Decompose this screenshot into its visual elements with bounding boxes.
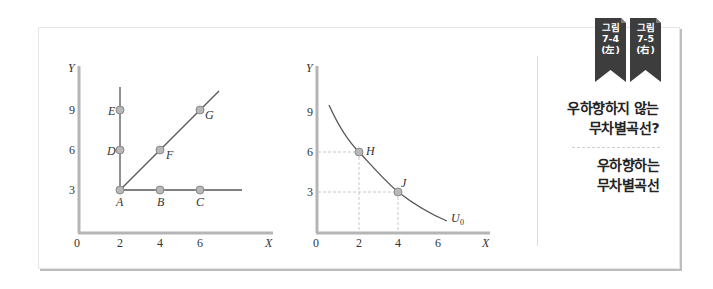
figure-ribbon-7-5: 그림 7-5 (右): [630, 18, 661, 82]
left-chart: Y X 0 2 4 6 3 6 9 A B C D E F G: [68, 61, 273, 250]
ribbon-line: 그림: [630, 22, 661, 33]
ribbon-label: 그림 7-4 (左): [595, 22, 626, 55]
label-f: F: [165, 148, 174, 162]
ribbon-line: 7-4: [595, 33, 626, 44]
label-b: B: [157, 195, 165, 209]
left-x-tick: 4: [157, 236, 163, 250]
label-c: C: [196, 195, 205, 209]
ribbon-label: 그림 7-5 (右): [630, 22, 661, 55]
right-x-axis-label: X: [481, 236, 490, 250]
caption-divider: [572, 147, 660, 148]
ribbon-line: 7-5: [630, 33, 661, 44]
point-f: [156, 146, 164, 154]
left-y-tick: 6: [69, 143, 75, 157]
left-x-axis-label: X: [264, 236, 273, 250]
diagonal-ray: [120, 91, 219, 190]
label-a: A: [115, 195, 124, 209]
caption-line: 우하향하지 않는: [567, 98, 659, 118]
left-x-tick: 2: [117, 236, 123, 250]
right-x-tick: 6: [435, 236, 441, 250]
left-y-tick: 3: [69, 183, 75, 197]
left-origin-label: 0: [74, 236, 80, 250]
point-h: [355, 148, 363, 156]
right-x-tick: 2: [356, 236, 362, 250]
label-h: H: [365, 144, 376, 158]
point-a: [116, 186, 124, 194]
right-x-tick: 4: [395, 236, 401, 250]
point-e: [116, 106, 124, 114]
label-e: E: [107, 104, 116, 118]
caption-line: 무차별곡선: [597, 175, 660, 195]
caption-line: 우하향하는: [597, 155, 660, 175]
right-y-tick: 9: [307, 105, 313, 119]
point-d: [116, 146, 124, 154]
right-chart: Y X 0 2 4 6 3 6 9 H J U 0: [306, 61, 490, 250]
point-c: [196, 186, 204, 194]
question-caption: 우하향하지 않는 무차별곡선?: [567, 98, 659, 138]
label-d: D: [106, 144, 116, 158]
indifference-curve-u0: [329, 105, 447, 221]
left-y-tick: 9: [69, 103, 75, 117]
left-x-tick: 6: [197, 236, 203, 250]
figure-ribbon-7-4: 그림 7-4 (左): [595, 18, 626, 82]
right-y-tick: 6: [307, 145, 313, 159]
left-y-axis-label: Y: [68, 61, 76, 75]
ribbon-line: (右): [630, 44, 661, 55]
answer-caption: 우하향하는 무차별곡선: [597, 155, 660, 195]
right-y-tick: 3: [307, 185, 313, 199]
label-g: G: [205, 108, 214, 122]
caption-line: 무차별곡선?: [567, 118, 659, 138]
point-g: [196, 106, 204, 114]
label-j: J: [401, 176, 407, 190]
point-b: [156, 186, 164, 194]
right-y-axis-label: Y: [306, 61, 314, 75]
curve-label-subscript: 0: [460, 218, 464, 227]
right-origin-label: 0: [313, 236, 319, 250]
ribbon-line: (左): [595, 44, 626, 55]
ribbon-line: 그림: [595, 22, 626, 33]
